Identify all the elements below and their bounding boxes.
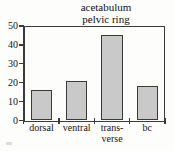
y-axis-tick-label: 40: [0, 40, 18, 50]
x-axis-tick-label: bc: [130, 122, 165, 133]
y-axis-tick: [19, 82, 24, 83]
y-axis-tick: [19, 101, 24, 102]
chart-title-line-1: acetabulum: [44, 1, 168, 13]
x-axis-tick-label-line: dorsal: [24, 122, 59, 133]
y-axis-line: [23, 26, 25, 122]
x-axis-tick-label-line: ventral: [59, 122, 94, 133]
x-axis-tick-label-line: bc: [130, 122, 165, 133]
x-axis-tick-label: dorsal: [24, 122, 59, 133]
scan-artifact: [6, 142, 12, 145]
chart-title-line-2: pelvic ring: [44, 13, 168, 25]
x-axis-tick-label: ventral: [59, 122, 94, 133]
y-axis-tick: [19, 63, 24, 64]
x-axis-tick-label-line: verse: [94, 133, 129, 144]
y-axis-tick-label: 0: [0, 116, 18, 126]
bar: [137, 86, 158, 120]
y-axis-tick: [19, 44, 24, 45]
bar-chart-figure: acetabulum pelvic ring 01020304050 dorsa…: [0, 0, 174, 151]
y-axis-tick-label: 50: [0, 21, 18, 31]
x-axis-tick-label: trans-verse: [94, 122, 129, 144]
bar: [101, 35, 122, 120]
bar: [66, 81, 87, 121]
y-axis-tick-label: 30: [0, 59, 18, 69]
y-axis-tick-label: 20: [0, 78, 18, 88]
y-axis-tick: [19, 25, 24, 26]
bar: [31, 90, 52, 120]
chart-title: acetabulum pelvic ring: [44, 1, 168, 25]
y-axis-tick-label: 10: [0, 97, 18, 107]
x-axis-tick-label-line: trans-: [94, 122, 129, 133]
